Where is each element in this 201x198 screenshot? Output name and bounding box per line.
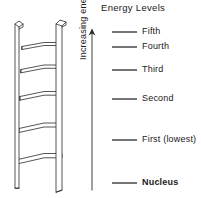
level-label-first: First (lowest) — [142, 134, 196, 144]
level-label-second: Second — [142, 93, 174, 103]
level-label-fifth: Fifth — [142, 26, 161, 36]
axis-label-increasing-energy: Increasing energy — [78, 46, 88, 60]
level-label-nucleus: Nucleus — [142, 177, 178, 187]
level-label-third: Third — [142, 64, 164, 74]
level-label-fourth: Fourth — [142, 41, 169, 51]
page-title: Energy Levels — [101, 2, 165, 13]
energy-levels-diagram: Energy Levels Increasing energy Fifth Fo… — [0, 0, 201, 198]
